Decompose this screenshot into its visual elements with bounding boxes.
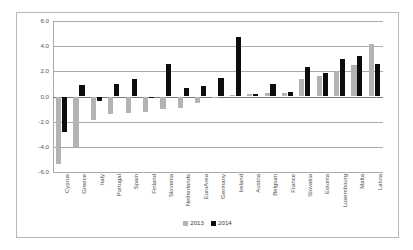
bar-2014 <box>201 86 206 96</box>
x-axis-tick-label: Malta <box>359 174 365 189</box>
bar-2014 <box>270 84 275 97</box>
y-axis-tick-label: 4.0 <box>40 43 49 49</box>
bar-group <box>261 21 278 172</box>
x-axis-tick-label: Latvia <box>377 174 383 190</box>
x-axis-tick-label: Slovenia <box>168 174 174 197</box>
y-axis-tick-label: 2.0 <box>40 68 49 74</box>
x-axis-tick-label: Germany <box>220 174 226 199</box>
bar-2013 <box>247 94 252 97</box>
bar-2013 <box>108 97 113 115</box>
bar-2014 <box>62 97 67 132</box>
bar-2014 <box>114 84 119 97</box>
bars-layer <box>53 21 383 172</box>
bar-2013 <box>282 93 287 96</box>
bar-2013 <box>178 97 183 108</box>
bar-group <box>366 21 383 172</box>
bar-2013 <box>73 97 78 147</box>
bar-2014 <box>218 78 223 96</box>
bar-2013 <box>143 97 148 112</box>
bar-2013 <box>212 97 217 98</box>
bar-2014 <box>97 97 102 101</box>
legend-swatch-icon <box>211 221 216 226</box>
x-axis-tick-label: Spain <box>133 174 139 189</box>
y-axis-tick-label: -6.0 <box>38 169 49 175</box>
gridline: -6.0 <box>53 172 383 173</box>
legend-item[interactable]: 2013 <box>183 220 204 226</box>
bar-2014 <box>305 67 310 97</box>
bar-group <box>227 21 244 172</box>
x-axis-tick-label: Italy <box>99 174 105 185</box>
bar-2014 <box>340 59 345 96</box>
bar-2014 <box>375 64 380 96</box>
bar-2014 <box>166 64 171 96</box>
bar-2013 <box>334 71 339 96</box>
bar-2013 <box>126 97 131 113</box>
bar-2013 <box>369 44 374 97</box>
x-axis-tick-label: EuroArea <box>203 174 209 199</box>
legend-label: 2013 <box>190 220 204 226</box>
bar-2014 <box>253 94 258 97</box>
x-axis-tick-label: Austria <box>255 174 261 193</box>
bar-group <box>70 21 87 172</box>
x-axis-tick-label: France <box>290 174 296 193</box>
bar-2013 <box>265 93 270 96</box>
x-axis-tick-label: Finland <box>151 174 157 194</box>
x-axis-category-labels: CyprusGreeceItalyPortugalSpainFinlandSlo… <box>53 174 383 224</box>
x-axis-tick-label: Netherlands <box>185 174 191 206</box>
bar-group <box>157 21 174 172</box>
bar-2013 <box>317 76 322 96</box>
bar-2013 <box>91 97 96 121</box>
bar-2014 <box>288 92 293 96</box>
bar-group <box>279 21 296 172</box>
x-axis-tick-label: Slovakia <box>307 174 313 197</box>
bar-2014 <box>132 79 137 97</box>
bar-group <box>53 21 70 172</box>
x-axis-tick-label: Ireland <box>238 174 244 192</box>
bar-group <box>314 21 331 172</box>
bar-group <box>331 21 348 172</box>
x-axis-tick-label: Portugal <box>116 174 122 196</box>
x-axis-tick-label: Luxembourg <box>342 174 348 207</box>
x-axis-tick-label: Belgium <box>272 174 278 196</box>
bar-2014 <box>323 73 328 97</box>
y-axis-tick-label: 6.0 <box>40 18 49 24</box>
bar-group <box>105 21 122 172</box>
bar-2014 <box>184 88 189 96</box>
legend-swatch-icon <box>183 221 188 226</box>
y-axis-tick-label: -2.0 <box>38 119 49 125</box>
y-axis-tick-label: -4.0 <box>38 144 49 150</box>
bar-2014 <box>149 97 154 98</box>
bar-group <box>88 21 105 172</box>
bar-2013 <box>299 79 304 97</box>
x-axis-tick-label: Estonia <box>324 174 330 194</box>
bar-2014 <box>357 56 362 97</box>
chart-container: 6.04.02.00.0-2.0-4.0-6.0 CyprusGreeceIta… <box>16 12 399 238</box>
bar-group <box>348 21 365 172</box>
chart-legend: 20132014 <box>17 220 398 226</box>
bar-group <box>122 21 139 172</box>
bar-2014 <box>236 37 241 96</box>
y-axis-tick-label: 0.0 <box>40 93 49 99</box>
x-axis-tick-label: Cyprus <box>64 174 70 193</box>
bar-2014 <box>79 85 84 96</box>
plot-area: 6.04.02.00.0-2.0-4.0-6.0 <box>53 21 383 172</box>
x-axis-tick-label: Greece <box>81 174 87 194</box>
bar-2013 <box>56 97 61 165</box>
bar-2013 <box>160 97 165 110</box>
bar-2013 <box>195 97 200 103</box>
legend-item[interactable]: 2014 <box>211 220 232 226</box>
bar-2013 <box>351 65 356 96</box>
bar-2013 <box>230 95 235 96</box>
bar-group <box>296 21 313 172</box>
bar-group <box>244 21 261 172</box>
bar-group <box>175 21 192 172</box>
bar-group <box>209 21 226 172</box>
bar-group <box>140 21 157 172</box>
legend-label: 2014 <box>218 220 232 226</box>
bar-group <box>192 21 209 172</box>
